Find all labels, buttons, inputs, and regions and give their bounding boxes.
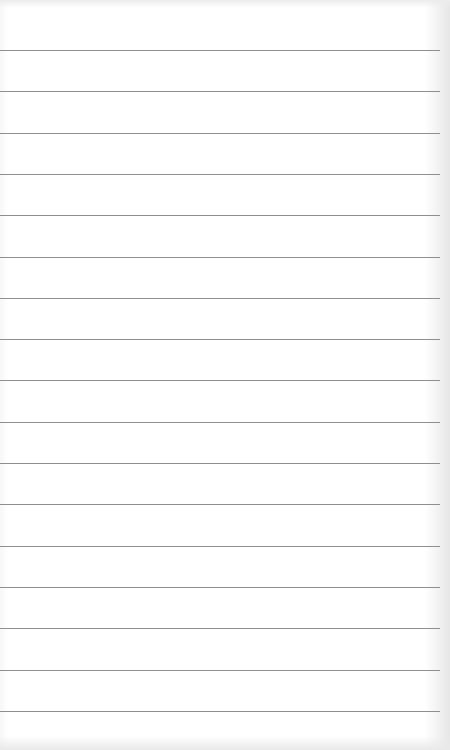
ruled-line: [0, 546, 440, 547]
ruled-line: [0, 628, 440, 629]
ruled-line: [0, 711, 440, 712]
ruled-line: [0, 463, 440, 464]
ruled-line: [0, 587, 440, 588]
ruled-line: [0, 91, 440, 92]
ruled-line: [0, 298, 440, 299]
ruled-line: [0, 339, 440, 340]
ruled-line: [0, 215, 440, 216]
ruled-line: [0, 670, 440, 671]
ruled-line: [0, 422, 440, 423]
lined-paper-sheet: [0, 0, 450, 750]
bottom-edge-shadow: [0, 736, 450, 750]
ruled-line: [0, 50, 440, 51]
top-edge-shadow: [0, 0, 450, 8]
ruled-line: [0, 380, 440, 381]
ruled-line: [0, 133, 440, 134]
ruled-line: [0, 504, 440, 505]
ruled-line: [0, 257, 440, 258]
ruled-line: [0, 174, 440, 175]
